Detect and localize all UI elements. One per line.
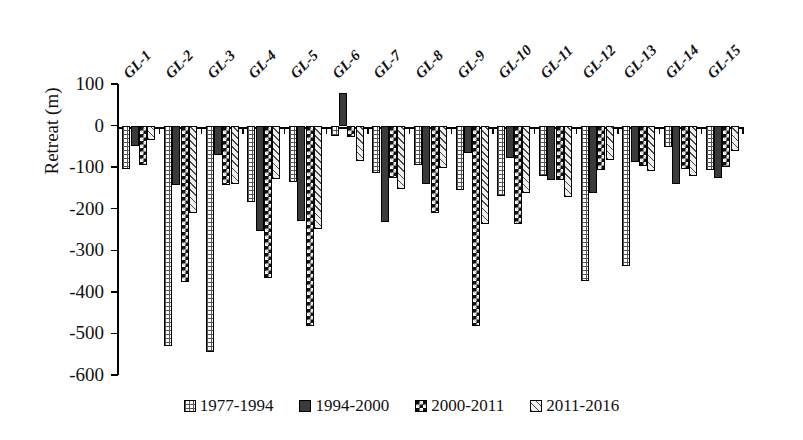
y-tick bbox=[111, 166, 118, 167]
x-label-gl-10: GL-10 bbox=[495, 42, 535, 82]
bar-gl-10-1977-1994 bbox=[497, 126, 505, 197]
y-tick-label: 0 bbox=[95, 115, 105, 137]
bar-gl-11-1977-1994 bbox=[539, 126, 547, 177]
bar-gl-12-1994-2000 bbox=[589, 126, 597, 193]
y-tick-label: -300 bbox=[69, 239, 104, 261]
y-tick bbox=[111, 333, 118, 334]
y-tick bbox=[111, 125, 118, 126]
bar-gl-2-1994-2000 bbox=[172, 126, 180, 186]
bar-gl-13-1977-1994 bbox=[622, 126, 630, 267]
x-tick bbox=[367, 127, 368, 134]
y-tick-label: -100 bbox=[69, 156, 104, 178]
x-label-gl-3: GL-3 bbox=[203, 47, 238, 82]
x-label-gl-6: GL-6 bbox=[328, 47, 363, 82]
bar-gl-11-2011-2016 bbox=[564, 126, 572, 197]
chart-legend: 1977-19941994-20002000-20112011-2016 bbox=[0, 396, 803, 416]
bar-gl-13-2000-2011 bbox=[639, 126, 647, 167]
bar-gl-3-1994-2000 bbox=[214, 126, 222, 156]
bar-gl-6-1977-1994 bbox=[331, 126, 339, 136]
x-tick bbox=[284, 127, 285, 134]
x-tick bbox=[326, 127, 327, 134]
legend-label: 2011-2016 bbox=[546, 396, 619, 416]
y-tick-label: -600 bbox=[69, 364, 104, 386]
legend-label: 2000-2011 bbox=[431, 396, 504, 416]
bar-gl-6-2000-2011 bbox=[347, 126, 355, 137]
bar-gl-11-1994-2000 bbox=[547, 126, 555, 180]
bar-gl-2-2000-2011 bbox=[181, 126, 189, 283]
x-label-gl-1: GL-1 bbox=[120, 47, 155, 82]
x-label-gl-7: GL-7 bbox=[370, 47, 405, 82]
bar-gl-2-1977-1994 bbox=[164, 126, 172, 347]
bar-gl-13-2011-2016 bbox=[647, 126, 655, 171]
bar-gl-4-1994-2000 bbox=[256, 126, 264, 231]
legend-item-2011-2016: 2011-2016 bbox=[530, 396, 619, 416]
bar-gl-9-1994-2000 bbox=[464, 126, 472, 154]
legend-swatch-checker-icon bbox=[415, 400, 427, 412]
x-label-gl-12: GL-12 bbox=[578, 42, 618, 82]
x-tick bbox=[201, 127, 202, 134]
y-tick-label: -200 bbox=[69, 198, 104, 220]
legend-swatch-dots-icon bbox=[184, 400, 196, 412]
x-label-gl-15: GL-15 bbox=[703, 42, 743, 82]
y-tick bbox=[111, 83, 118, 84]
x-tick bbox=[492, 127, 493, 134]
bar-gl-15-1977-1994 bbox=[706, 126, 714, 170]
bar-gl-6-1994-2000 bbox=[339, 93, 347, 125]
x-tick bbox=[617, 127, 618, 134]
bar-gl-9-2000-2011 bbox=[472, 126, 480, 326]
bar-gl-9-1977-1994 bbox=[456, 126, 464, 190]
bar-gl-1-1994-2000 bbox=[131, 126, 139, 146]
bar-gl-3-1977-1994 bbox=[206, 126, 214, 353]
bar-gl-14-1977-1994 bbox=[664, 126, 672, 148]
y-tick bbox=[111, 291, 118, 292]
bar-gl-3-2011-2016 bbox=[231, 126, 239, 185]
x-label-gl-9: GL-9 bbox=[453, 47, 488, 82]
x-label-gl-4: GL-4 bbox=[245, 47, 280, 82]
bar-gl-4-1977-1994 bbox=[247, 126, 255, 202]
bar-gl-4-2011-2016 bbox=[272, 126, 280, 180]
x-tick bbox=[576, 127, 577, 134]
bar-gl-9-2011-2016 bbox=[481, 126, 489, 225]
bar-gl-10-1994-2000 bbox=[506, 126, 514, 158]
x-tick bbox=[742, 127, 743, 134]
retreat-bar-chart: Retreat (m) GL-1GL-2GL-3GL-4GL-5GL-6GL-7… bbox=[0, 0, 803, 440]
y-tick-label: 100 bbox=[76, 73, 105, 95]
y-tick-label: -500 bbox=[69, 322, 104, 344]
x-tick bbox=[242, 127, 243, 134]
bar-gl-5-2011-2016 bbox=[314, 126, 322, 230]
bar-gl-13-1994-2000 bbox=[631, 126, 639, 163]
y-tick bbox=[111, 374, 118, 375]
x-label-gl-13: GL-13 bbox=[620, 42, 660, 82]
bar-gl-1-1977-1994 bbox=[122, 126, 130, 170]
x-tick bbox=[159, 127, 160, 134]
bar-gl-15-2000-2011 bbox=[722, 126, 730, 168]
bar-gl-8-1977-1994 bbox=[414, 126, 422, 165]
x-tick bbox=[409, 127, 410, 134]
x-label-gl-8: GL-8 bbox=[412, 47, 447, 82]
bar-gl-12-1977-1994 bbox=[581, 126, 589, 281]
legend-swatch-solid-icon bbox=[299, 400, 311, 412]
bar-gl-8-1994-2000 bbox=[422, 126, 430, 184]
y-tick-label: -400 bbox=[69, 281, 104, 303]
x-label-gl-2: GL-2 bbox=[162, 47, 197, 82]
legend-label: 1994-2000 bbox=[315, 396, 389, 416]
legend-label: 1977-1994 bbox=[200, 396, 274, 416]
bar-gl-11-2000-2011 bbox=[556, 126, 564, 181]
bar-gl-8-2000-2011 bbox=[431, 126, 439, 213]
bar-gl-14-2000-2011 bbox=[681, 126, 689, 170]
bar-gl-14-1994-2000 bbox=[672, 126, 680, 185]
y-axis-title: Retreat (m) bbox=[41, 21, 63, 241]
bar-gl-5-2000-2011 bbox=[306, 126, 314, 327]
bar-gl-4-2000-2011 bbox=[264, 126, 272, 279]
x-tick bbox=[701, 127, 702, 134]
bar-gl-7-1994-2000 bbox=[381, 126, 389, 222]
bar-gl-1-2011-2016 bbox=[147, 126, 155, 141]
bar-gl-15-2011-2016 bbox=[731, 126, 739, 151]
legend-item-1994-2000: 1994-2000 bbox=[299, 396, 389, 416]
bar-gl-5-1994-2000 bbox=[297, 126, 305, 222]
bar-gl-10-2011-2016 bbox=[522, 126, 530, 194]
bar-gl-8-2011-2016 bbox=[439, 126, 447, 169]
bar-gl-12-2000-2011 bbox=[597, 126, 605, 170]
bar-gl-6-2011-2016 bbox=[356, 126, 364, 161]
x-axis-category-labels: GL-1GL-2GL-3GL-4GL-5GL-6GL-7GL-8GL-9GL-1… bbox=[118, 0, 743, 84]
